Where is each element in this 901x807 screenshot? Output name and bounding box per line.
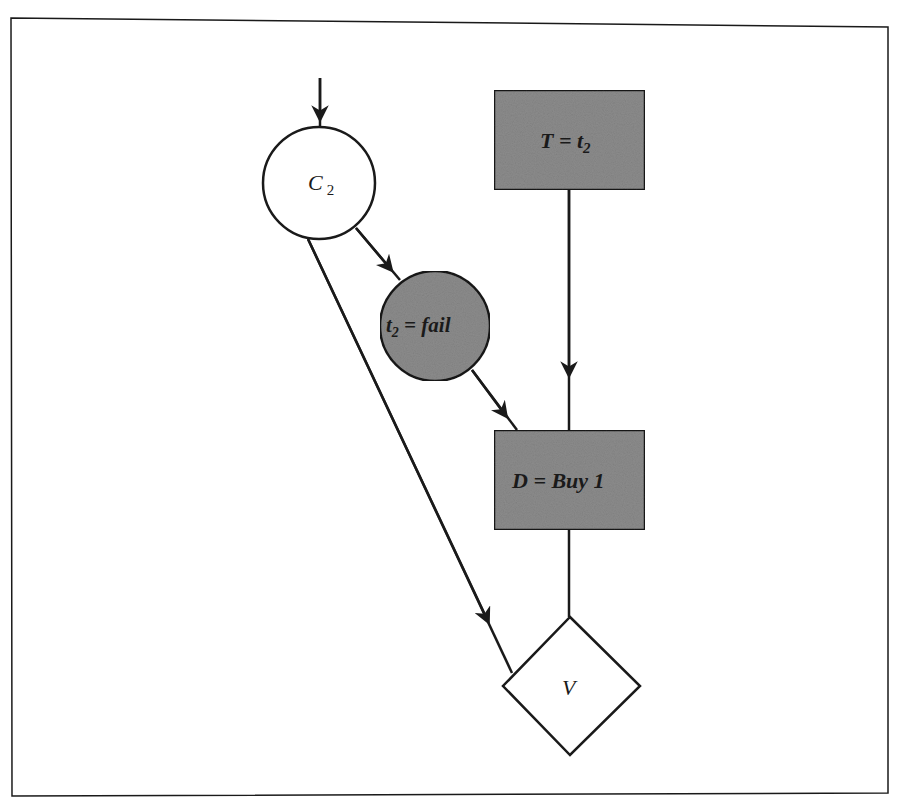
node-d-label: D = Buy 1	[511, 468, 605, 493]
node-t2fail: t2 = fail	[380, 271, 490, 381]
node-v: V	[503, 617, 640, 755]
influence-diagram: C2 T = t2 t2 = fail D = Buy 1 V	[0, 0, 901, 807]
node-t: T = t2	[494, 90, 645, 190]
edge-arrowhead	[356, 228, 388, 266]
diagram-frame	[11, 18, 888, 796]
node-c2: C2	[263, 127, 375, 239]
edge-arrowhead	[472, 370, 503, 412]
node-d: D = Buy 1	[494, 430, 645, 530]
